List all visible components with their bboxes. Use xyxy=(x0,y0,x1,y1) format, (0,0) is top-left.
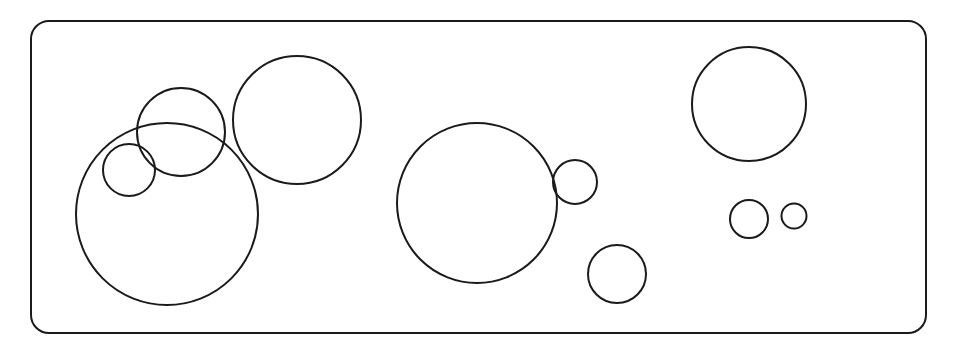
circle-small-center-right xyxy=(553,160,597,204)
circle-large-left xyxy=(76,123,258,305)
circle-group xyxy=(76,47,807,305)
circle-diagram xyxy=(0,0,971,348)
circle-large-center xyxy=(397,123,557,283)
circle-medium-top-left xyxy=(137,88,225,176)
circle-small-left xyxy=(103,144,155,196)
circle-medium-upper xyxy=(233,56,361,184)
circle-tiny-right xyxy=(782,204,807,229)
circle-small-right xyxy=(730,200,768,238)
circle-medium-top-right xyxy=(692,47,806,161)
circle-small-bottom-center xyxy=(588,245,646,303)
